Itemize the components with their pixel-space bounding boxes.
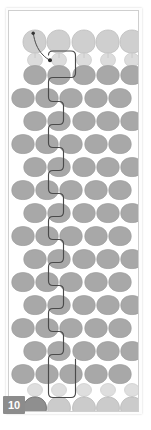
thumbnail-panel[interactable]: 10 bbox=[0, 0, 151, 430]
apple-grid-artwork bbox=[9, 11, 138, 411]
pointer-origin-dot bbox=[32, 32, 35, 35]
page-number-badge[interactable]: 10 bbox=[3, 396, 25, 414]
apple-grid-body bbox=[12, 66, 138, 384]
pointer-target-dot bbox=[48, 58, 52, 62]
row-top-small bbox=[28, 53, 139, 67]
row-bottom-light bbox=[24, 397, 138, 411]
selected-apple[interactable] bbox=[24, 397, 47, 411]
slide-frame[interactable] bbox=[8, 10, 139, 412]
row-top-light bbox=[23, 30, 138, 53]
